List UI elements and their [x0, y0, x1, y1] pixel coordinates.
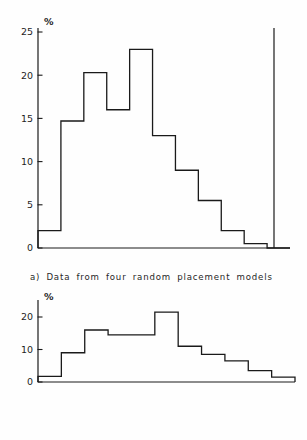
chart-b-percent-label: %: [44, 292, 54, 302]
y-tick-label: 25: [21, 26, 33, 37]
figure-b: 01020 % b) Data from Vernon's 1966 obser…: [0, 292, 307, 392]
chart-a-percent-label: %: [44, 16, 54, 27]
figure-a-caption-line1: a) Data from four random placement model…: [30, 272, 273, 282]
y-tick-label: 5: [27, 199, 33, 210]
chart-b-plot: 01020 %: [0, 292, 307, 397]
figure-a: 0510152025 % a) Data from four random pl…: [0, 8, 307, 258]
y-tick-label: 20: [21, 311, 33, 322]
y-tick-label: 0: [27, 242, 33, 253]
chart-a-ticks: 0510152025: [21, 26, 43, 253]
figure-a-caption: a) Data from four random placement model…: [30, 272, 300, 284]
y-tick-label: 15: [21, 113, 33, 124]
chart-a-svg: 0510152025 %: [0, 8, 307, 260]
y-tick-label: 20: [21, 70, 33, 81]
y-tick-label: 10: [21, 156, 33, 167]
chart-a-plot: 0510152025 %: [0, 8, 307, 260]
figure-page: 0510152025 % a) Data from four random pl…: [0, 0, 307, 440]
top-cut-text: [60, 0, 300, 6]
y-tick-label: 10: [21, 344, 33, 355]
chart-b-step-outline: [38, 312, 295, 382]
chart-a-step-outline: [38, 49, 290, 248]
chart-b-svg: 01020 %: [0, 292, 307, 397]
y-tick-label: 0: [27, 376, 33, 387]
